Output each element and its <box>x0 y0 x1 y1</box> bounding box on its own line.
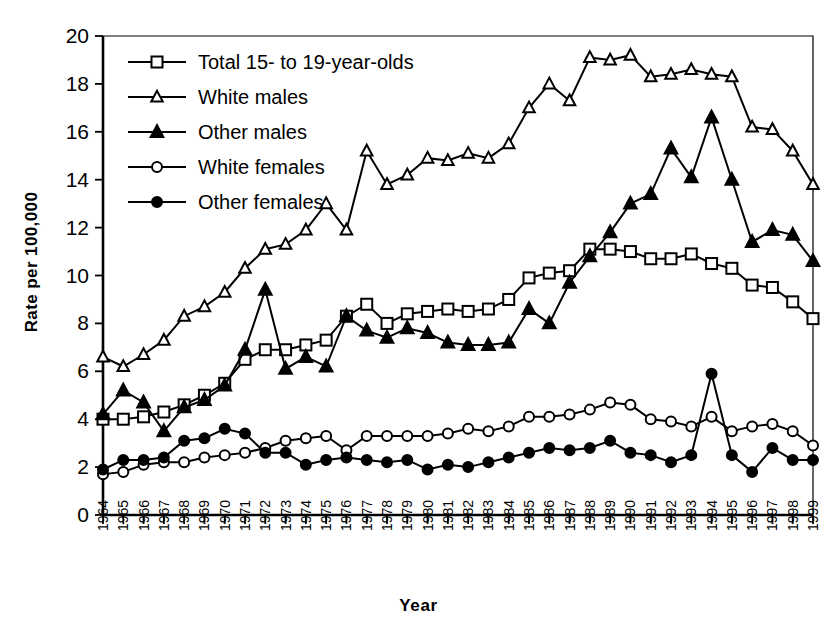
data-point-open-square <box>402 308 413 319</box>
data-point-open-triangle <box>584 51 596 62</box>
data-point-filled-circle <box>524 448 534 458</box>
plot-canvas: 02468101214161820 1964196519661967196819… <box>0 0 837 628</box>
data-point-open-square <box>686 248 697 259</box>
y-tick-label: 10 <box>66 264 89 287</box>
data-point-filled-circle <box>565 445 575 455</box>
data-point-filled-circle <box>747 467 757 477</box>
data-point-open-square <box>767 282 778 293</box>
data-point-open-triangle <box>199 300 211 311</box>
data-point-open-square <box>382 318 393 329</box>
data-point-open-circle <box>788 426 798 436</box>
data-point-filled-circle <box>646 450 656 460</box>
data-point-filled-circle <box>727 450 737 460</box>
data-point-open-square <box>158 407 169 418</box>
series-layer <box>97 49 820 479</box>
data-point-open-circle <box>686 421 696 431</box>
legend-item-0: Total 15- to 19-year-olds <box>128 51 414 73</box>
data-point-filled-circle <box>808 455 818 465</box>
data-point-open-square <box>152 57 163 68</box>
y-tick-label: 16 <box>66 120 89 143</box>
data-point-filled-triangle <box>766 223 779 235</box>
y-tick-label: 20 <box>66 24 89 47</box>
data-point-open-square <box>787 296 798 307</box>
data-point-open-circle <box>483 426 493 436</box>
data-point-open-circle <box>767 419 777 429</box>
data-point-open-square <box>706 258 717 269</box>
data-point-open-square <box>118 414 129 425</box>
data-point-filled-circle <box>199 433 209 443</box>
data-point-open-circle <box>727 426 737 436</box>
y-axis-tick-group: 02468101214161820 <box>66 24 103 526</box>
legend-label: Other males <box>198 121 307 143</box>
y-tick-label: 0 <box>77 503 89 526</box>
data-point-filled-circle <box>443 460 453 470</box>
data-point-filled-circle <box>301 460 311 470</box>
data-point-filled-triangle <box>543 317 556 329</box>
legend-item-4: Other females <box>128 191 324 213</box>
data-point-open-square <box>422 306 433 317</box>
data-point-filled-triangle <box>624 197 637 209</box>
data-point-filled-circle <box>139 455 149 465</box>
data-point-open-square <box>321 335 332 346</box>
data-point-open-square <box>666 253 677 264</box>
data-point-open-circle <box>179 457 189 467</box>
data-point-filled-triangle <box>746 235 759 247</box>
data-point-open-triangle <box>564 94 576 105</box>
data-point-open-square <box>361 299 372 310</box>
data-point-filled-circle <box>504 453 514 463</box>
data-point-filled-circle <box>152 197 162 207</box>
data-point-open-circle <box>423 431 433 441</box>
data-point-open-square <box>726 263 737 274</box>
data-point-filled-triangle <box>523 302 536 314</box>
data-point-open-triangle <box>280 238 292 249</box>
data-point-open-circle <box>240 448 250 458</box>
data-point-open-triangle <box>686 63 698 74</box>
data-point-filled-triangle <box>137 396 150 408</box>
data-point-filled-triangle <box>117 384 130 396</box>
data-point-open-triangle <box>422 152 434 163</box>
data-point-open-square <box>808 313 819 324</box>
data-point-open-circle <box>443 429 453 439</box>
data-point-open-square <box>645 253 656 264</box>
data-point-filled-triangle <box>239 343 252 355</box>
data-point-filled-circle <box>666 457 676 467</box>
data-point-filled-triangle <box>259 283 272 295</box>
data-point-open-triangle <box>746 121 758 132</box>
data-point-open-circle <box>666 417 676 427</box>
data-point-filled-circle <box>321 455 331 465</box>
data-point-open-circle <box>524 412 534 422</box>
data-point-open-triangle <box>361 145 373 156</box>
data-point-open-circle <box>625 400 635 410</box>
y-tick-label: 18 <box>66 72 89 95</box>
data-point-filled-circle <box>423 464 433 474</box>
data-point-open-square <box>138 411 149 422</box>
data-point-filled-triangle <box>360 324 373 336</box>
data-point-open-circle <box>605 397 615 407</box>
data-point-open-circle <box>220 450 230 460</box>
data-point-open-square <box>442 304 453 315</box>
data-point-open-triangle <box>97 351 109 362</box>
data-point-open-circle <box>504 421 514 431</box>
chart-legend: Total 15- to 19-year-oldsWhite malesOthe… <box>128 51 414 213</box>
data-point-open-circle <box>281 436 291 446</box>
data-point-filled-triangle <box>644 187 657 199</box>
data-point-filled-circle <box>585 443 595 453</box>
data-point-open-triangle <box>544 78 556 89</box>
data-point-open-square <box>625 246 636 257</box>
data-point-open-circle <box>747 421 757 431</box>
data-point-open-square <box>524 272 535 283</box>
data-point-filled-circle <box>118 455 128 465</box>
data-point-filled-triangle <box>279 362 292 374</box>
data-point-filled-triangle <box>442 336 455 348</box>
data-point-filled-circle <box>98 464 108 474</box>
data-point-filled-circle <box>788 455 798 465</box>
data-point-open-square <box>605 244 616 255</box>
data-point-filled-circle <box>240 429 250 439</box>
data-point-open-square <box>483 304 494 315</box>
data-point-filled-triangle <box>502 336 515 348</box>
data-point-open-circle <box>199 453 209 463</box>
data-point-filled-circle <box>483 457 493 467</box>
data-point-open-square <box>503 294 514 305</box>
data-point-filled-circle <box>341 453 351 463</box>
data-point-open-circle <box>362 431 372 441</box>
